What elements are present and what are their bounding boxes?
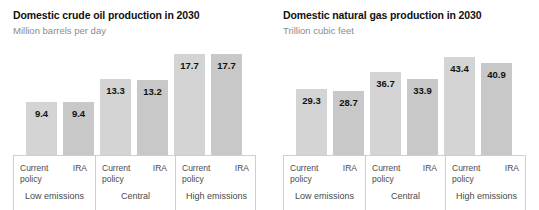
bar-value-label: 13.3 (100, 85, 131, 96)
bar-value-label: 36.7 (370, 78, 401, 89)
series-label-line2: policy (452, 174, 474, 184)
bar-value-label: 29.3 (296, 95, 327, 106)
bar-value-label: 40.9 (481, 69, 512, 80)
series-label-ira: IRA (235, 163, 249, 174)
axis-group-label: Low emissions (14, 191, 95, 201)
bar-value-label: 17.7 (174, 60, 205, 71)
axis-group-low-emissions: Current policy IRA Low emissions (14, 156, 95, 210)
series-label-line1: Current (372, 163, 400, 173)
axis-label-box: Current policy IRA Low emissions Current… (283, 155, 526, 210)
series-label-current-policy: Current policy (452, 163, 480, 185)
axis-label-box: Current policy IRA Low emissions Current… (13, 155, 256, 210)
series-label-ira: IRA (423, 163, 437, 174)
series-label-current-policy: Current policy (372, 163, 400, 185)
axis-group-low-emissions: Current policy IRA Low emissions (284, 156, 365, 210)
series-label-line1: Current (102, 163, 130, 173)
series-label-ira: IRA (153, 163, 167, 174)
bar-value-label: 17.7 (211, 60, 242, 71)
bar-value-label: 28.7 (333, 97, 364, 108)
chart-title: Domestic natural gas production in 2030 (283, 9, 482, 21)
axis-group-central: Current policy IRA Central (365, 156, 445, 210)
series-label-line1: Current (290, 163, 318, 173)
axis-group-label: Central (96, 191, 175, 201)
chart-panel-crude-oil: Domestic crude oil production in 2030 Mi… (0, 0, 269, 210)
series-label-current-policy: Current policy (290, 163, 318, 185)
bar-value-label: 9.4 (63, 108, 94, 119)
series-label-line2: policy (102, 174, 124, 184)
series-label-line1: Current (182, 163, 210, 173)
chart-subtitle: Million barrels per day (13, 25, 106, 36)
axis-group-label: Central (366, 191, 445, 201)
series-label-ira: IRA (343, 163, 357, 174)
axis-group-label: High emissions (446, 191, 527, 201)
figure-container: Domestic crude oil production in 2030 Mi… (0, 0, 539, 210)
chart-panel-natural-gas: Domestic natural gas production in 2030 … (270, 0, 539, 210)
series-label-ira: IRA (505, 163, 519, 174)
plot-area-natural-gas: 29.3 28.7 36.7 33.9 43.4 (283, 40, 526, 155)
series-label-line2: policy (290, 174, 312, 184)
series-label-line2: policy (372, 174, 394, 184)
axis-group-high-emissions: Current policy IRA High emissions (175, 156, 257, 210)
series-label-current-policy: Current policy (102, 163, 130, 185)
bar-value-label: 33.9 (407, 85, 438, 96)
series-label-current-policy: Current policy (182, 163, 210, 185)
axis-group-label: High emissions (176, 191, 257, 201)
series-label-line2: policy (20, 174, 42, 184)
axis-group-high-emissions: Current policy IRA High emissions (445, 156, 527, 210)
bar-value-label: 43.4 (444, 63, 475, 74)
bar-value-label: 13.2 (137, 86, 168, 97)
series-label-line2: policy (182, 174, 204, 184)
bar-value-label: 9.4 (26, 108, 57, 119)
plot-area-crude-oil: 9.4 9.4 13.3 13.2 17.7 (13, 40, 256, 155)
series-label-line1: Current (452, 163, 480, 173)
chart-subtitle: Trillion cubic feet (283, 25, 354, 36)
axis-group-label: Low emissions (284, 191, 365, 201)
series-label-line1: Current (20, 163, 48, 173)
chart-title: Domestic crude oil production in 2030 (13, 9, 200, 21)
axis-group-central: Current policy IRA Central (95, 156, 175, 210)
series-label-current-policy: Current policy (20, 163, 48, 185)
series-label-ira: IRA (73, 163, 87, 174)
